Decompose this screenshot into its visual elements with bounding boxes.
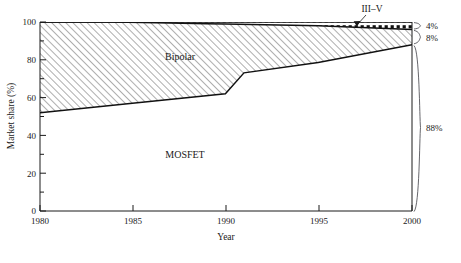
market-share-area-chart: 0 20 40 60 80 100 1980 1985 1990 1995 20… bbox=[0, 0, 461, 263]
stacked-bands bbox=[40, 22, 412, 211]
y-tick-label-100: 100 bbox=[23, 17, 37, 27]
y-tick-label-40: 40 bbox=[27, 131, 37, 141]
region-label-mosfet: MOSFET bbox=[165, 149, 204, 160]
pct-label-mosfet: 88% bbox=[426, 123, 443, 133]
y-tick-label-20: 20 bbox=[27, 169, 37, 179]
callout-label-iii-v: III–V bbox=[361, 4, 382, 14]
x-axis-title: Year bbox=[217, 232, 235, 242]
right-bracket-group: 4% 8% 88% bbox=[414, 21, 443, 212]
y-tick-label-0: 0 bbox=[32, 206, 37, 216]
y-tick-label-60: 60 bbox=[27, 93, 37, 103]
y-axis-title: Market share (%) bbox=[6, 83, 17, 149]
x-tick-label-1990: 1990 bbox=[217, 216, 236, 226]
bracket-mosfet bbox=[414, 46, 421, 212]
pct-label-bipolar: 8% bbox=[426, 33, 439, 43]
x-tick-label-2000: 2000 bbox=[403, 216, 422, 226]
chart-canvas: 0 20 40 60 80 100 1980 1985 1990 1995 20… bbox=[0, 0, 461, 263]
x-tick-label-1985: 1985 bbox=[124, 216, 143, 226]
region-label-bipolar: Bipolar bbox=[165, 51, 196, 62]
x-tick-label-1980: 1980 bbox=[31, 216, 50, 226]
x-tick-label-1995: 1995 bbox=[310, 216, 329, 226]
pct-label-iii-v: 4% bbox=[426, 21, 439, 31]
bracket-iii-v bbox=[414, 23, 421, 29]
y-tick-label-80: 80 bbox=[27, 55, 37, 65]
bracket-bipolar bbox=[414, 30, 421, 43]
